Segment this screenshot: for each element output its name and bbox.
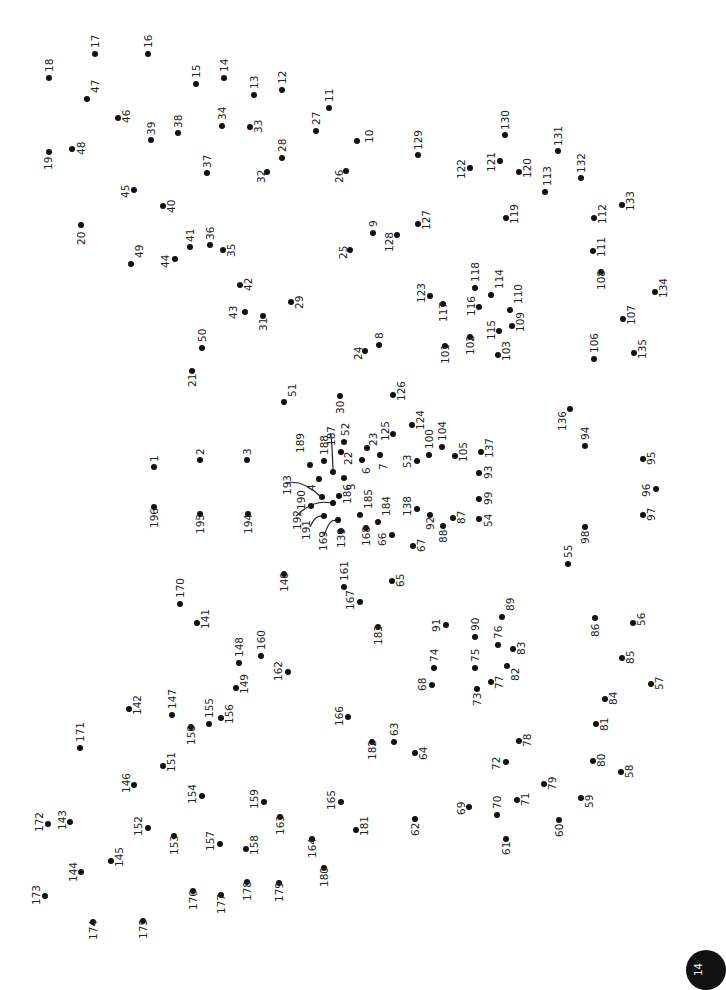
dot-27[interactable] <box>313 128 319 134</box>
dot-86[interactable] <box>592 615 598 621</box>
dot-14[interactable] <box>221 75 227 81</box>
dot-189[interactable] <box>307 462 313 468</box>
dot-11[interactable] <box>326 105 332 111</box>
dot-96[interactable] <box>653 486 659 492</box>
dot-68[interactable] <box>429 682 435 688</box>
dot-41[interactable] <box>187 244 193 250</box>
dot-190[interactable] <box>308 503 314 509</box>
dot-66[interactable] <box>389 532 395 538</box>
dot-39[interactable] <box>148 137 154 143</box>
dot-104[interactable] <box>439 444 445 450</box>
dot-13[interactable] <box>251 92 257 98</box>
dot-74[interactable] <box>431 665 437 671</box>
dot-75[interactable] <box>472 665 478 671</box>
dot-8[interactable] <box>376 342 382 348</box>
dot-90[interactable] <box>472 634 478 640</box>
dot-88[interactable] <box>440 523 446 529</box>
dot-52[interactable] <box>341 439 347 445</box>
dot-4[interactable] <box>316 476 322 482</box>
dot-152[interactable] <box>145 825 151 831</box>
dot-50[interactable] <box>199 345 205 351</box>
dot-44[interactable] <box>172 256 178 262</box>
dot-55[interactable] <box>565 561 571 567</box>
dot-18[interactable] <box>46 75 52 81</box>
dot-47[interactable] <box>84 96 90 102</box>
dot-1[interactable] <box>151 464 157 470</box>
dot-43[interactable] <box>242 309 248 315</box>
dot-100[interactable] <box>426 452 432 458</box>
dot-147[interactable] <box>169 712 175 718</box>
dot-193[interactable] <box>319 494 325 500</box>
dot-157[interactable] <box>217 841 223 847</box>
dot-166[interactable] <box>345 714 351 720</box>
dot-169[interactable] <box>335 517 341 523</box>
dot-188[interactable] <box>321 458 327 464</box>
dot-191[interactable] <box>321 513 327 519</box>
dot-49[interactable] <box>128 261 134 267</box>
dot-167[interactable] <box>357 599 363 605</box>
dot-16[interactable] <box>145 51 151 57</box>
dot-9[interactable] <box>370 230 376 236</box>
dot-91[interactable] <box>443 622 449 628</box>
dot-159[interactable] <box>261 799 267 805</box>
dot-10[interactable] <box>354 138 360 144</box>
dot-160[interactable] <box>258 653 264 659</box>
dot-154[interactable] <box>199 793 205 799</box>
dot-138[interactable] <box>414 506 420 512</box>
dot-5[interactable] <box>341 475 347 481</box>
dot-155[interactable] <box>206 721 212 727</box>
dot-129[interactable] <box>415 152 421 158</box>
dot-19[interactable] <box>46 149 52 155</box>
dot-172[interactable] <box>45 821 51 827</box>
dot-131[interactable] <box>555 148 561 154</box>
dot-72[interactable] <box>503 759 509 765</box>
dot-38[interactable] <box>175 130 181 136</box>
dot-170[interactable] <box>177 601 183 607</box>
dot-label: 72 <box>491 757 502 770</box>
dot-184[interactable] <box>375 519 381 525</box>
dot-130[interactable] <box>502 132 508 138</box>
dot-113[interactable] <box>542 189 548 195</box>
dot-185[interactable] <box>357 512 363 518</box>
dot-30[interactable] <box>337 393 343 399</box>
dot-187[interactable] <box>330 469 336 475</box>
dot-3[interactable] <box>244 457 250 463</box>
dot-2[interactable] <box>197 457 203 463</box>
dot-165[interactable] <box>338 799 344 805</box>
dot-17[interactable] <box>92 51 98 57</box>
dot-98[interactable] <box>582 524 588 530</box>
dot-53[interactable] <box>414 458 420 464</box>
dot-121[interactable] <box>497 158 503 164</box>
dot-63[interactable] <box>391 739 397 745</box>
dot-62[interactable] <box>412 816 418 822</box>
dot-122[interactable] <box>467 165 473 171</box>
dot-7[interactable] <box>377 452 383 458</box>
dot-123[interactable] <box>427 293 433 299</box>
dot-162[interactable] <box>285 669 291 675</box>
dot-132[interactable] <box>578 175 584 181</box>
dot-118[interactable] <box>472 285 478 291</box>
dot-20[interactable] <box>78 222 84 228</box>
dot-114[interactable] <box>488 292 494 298</box>
dot-192[interactable] <box>330 500 336 506</box>
dot-28[interactable] <box>279 155 285 161</box>
dot-89[interactable] <box>499 614 505 620</box>
dot-110[interactable] <box>507 307 513 313</box>
dot-60[interactable] <box>556 817 562 823</box>
dot-173[interactable] <box>42 893 48 899</box>
dot-70[interactable] <box>494 812 500 818</box>
dot-76[interactable] <box>495 642 501 648</box>
dot-171[interactable] <box>77 745 83 751</box>
dot-37[interactable] <box>204 170 210 176</box>
dot-148[interactable] <box>236 660 242 666</box>
dot-6[interactable] <box>359 457 365 463</box>
dot-94[interactable] <box>582 443 588 449</box>
dot-45[interactable] <box>131 187 137 193</box>
dot-36[interactable] <box>207 242 213 248</box>
dot-73[interactable] <box>474 686 480 692</box>
dot-34[interactable] <box>219 123 225 129</box>
dot-51[interactable] <box>281 399 287 405</box>
dot-15[interactable] <box>193 81 199 87</box>
dot-106[interactable] <box>591 356 597 362</box>
dot-12[interactable] <box>279 87 285 93</box>
